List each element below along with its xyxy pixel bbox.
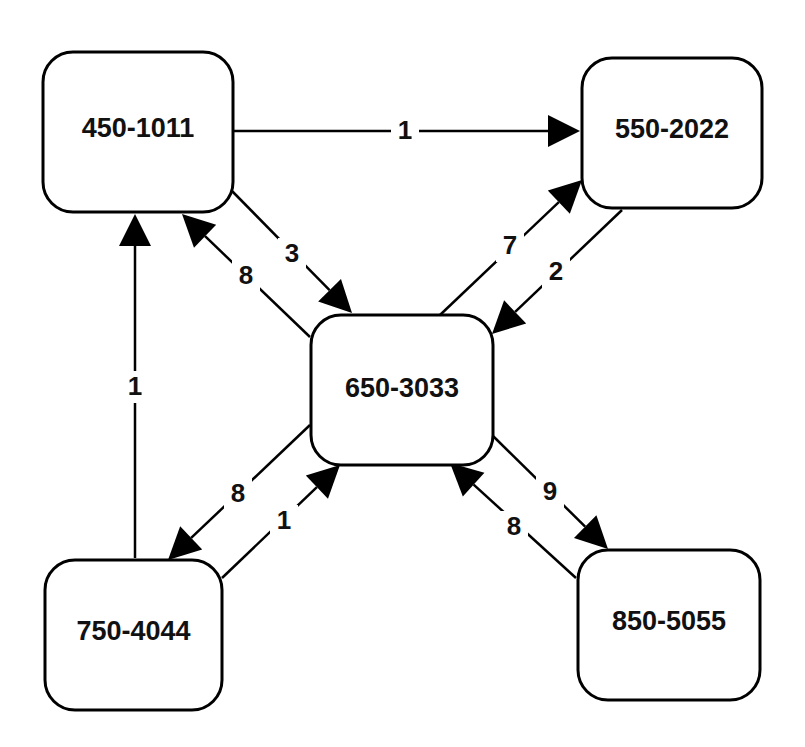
edge-n750-to-n450: 1 [119, 214, 151, 558]
edge-weight-label: 8 [507, 511, 521, 541]
node-450-1011: 450-1011 [43, 52, 233, 212]
edge-weight-label: 8 [239, 260, 253, 290]
edge-weight-label: 7 [503, 230, 517, 260]
arrowhead-icon [548, 115, 580, 147]
edge-n650-to-n550: 7 [440, 180, 582, 315]
node-label: 450-1011 [82, 113, 195, 143]
arrowhead-icon [119, 214, 151, 246]
node-650-3033: 650-3033 [311, 315, 493, 465]
edge-weight-label: 1 [128, 371, 142, 401]
node-850-5055: 850-5055 [578, 550, 760, 700]
nodes-layer: 450-1011550-2022650-3033750-4044850-5055 [43, 52, 762, 710]
edge-weight-label: 1 [398, 115, 412, 145]
node-750-4044: 750-4044 [45, 560, 222, 710]
edge-n450-to-n550: 1 [233, 115, 580, 147]
edge-n650-to-n750: 8 [168, 425, 310, 560]
edge-weight-label: 3 [285, 238, 299, 268]
node-label: 750-4044 [76, 616, 190, 646]
edge-n550-to-n650: 2 [492, 210, 622, 334]
node-label: 850-5055 [612, 606, 726, 636]
node-label: 550-2022 [615, 114, 729, 144]
edge-weight-label: 2 [549, 256, 563, 286]
edge-n650-to-n450: 8 [182, 214, 310, 337]
edge-weight-label: 1 [277, 505, 291, 535]
call-graph-diagram: 1387218198 450-1011550-2022650-3033750-4… [0, 0, 805, 747]
edge-weight-label: 9 [543, 476, 557, 506]
edge-weight-label: 8 [231, 478, 245, 508]
node-label: 650-3033 [345, 373, 459, 403]
edge-n450-to-n650: 3 [232, 191, 352, 313]
node-550-2022: 550-2022 [582, 58, 762, 208]
